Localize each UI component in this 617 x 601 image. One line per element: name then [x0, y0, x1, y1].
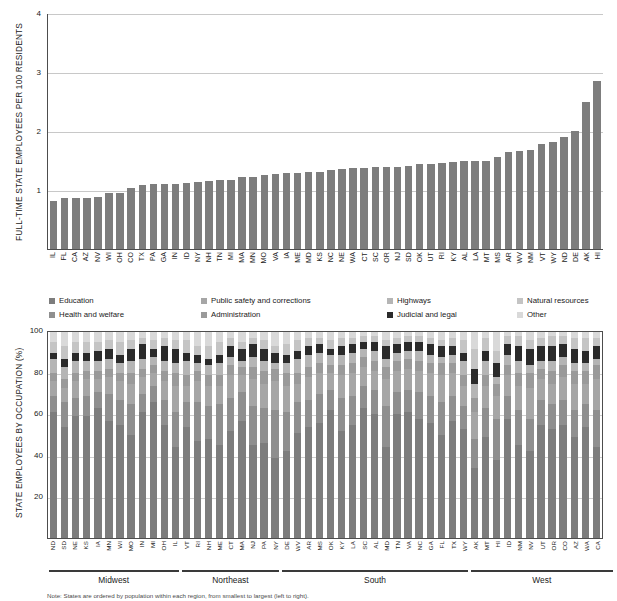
bar [83, 198, 91, 249]
stacked-bar-cell [403, 332, 414, 538]
stacked-bar [150, 332, 157, 538]
x-tick-label: VT [183, 541, 190, 549]
x-tick-label: OH [116, 252, 123, 263]
stack-segment [260, 371, 267, 383]
x-tick: NH [203, 252, 214, 282]
x-tick-label: DE [283, 541, 290, 550]
stacked-bar-cell [336, 332, 347, 538]
bar [127, 188, 135, 249]
stack-segment [427, 355, 434, 363]
bar [482, 161, 490, 249]
stacked-bar-cell [425, 332, 436, 538]
x-tick-label: UT [427, 252, 434, 262]
stacked-bar-cell [569, 332, 580, 538]
x-tick-label: MN [105, 541, 112, 551]
legend-label: Health and welfare [59, 311, 124, 319]
stack-segment [382, 346, 389, 358]
stack-segment [161, 400, 168, 425]
legend-item[interactable]: Health and welfare [49, 308, 201, 322]
stack-segment [205, 365, 212, 375]
x-tick-label: TX [138, 252, 145, 261]
x-tick-label: KY [450, 252, 457, 262]
stack-segment [127, 404, 134, 435]
stacked-bar-cell [270, 332, 281, 538]
bar-cell [170, 14, 181, 249]
stacked-bar [349, 332, 356, 538]
stack-segment [482, 408, 489, 437]
stack-segment [493, 363, 500, 377]
stack-segment [260, 349, 267, 361]
bar-cell [248, 14, 259, 249]
x-tick: IN [169, 252, 180, 282]
stack-segment [360, 357, 367, 367]
x-tick-label: MD [383, 541, 390, 551]
x-tick-label: UT [539, 541, 546, 549]
legend-item[interactable]: Natural resources [517, 294, 609, 308]
bar [216, 180, 224, 249]
stacked-bar-cell [513, 332, 524, 538]
stacked-bar-cell [192, 332, 203, 538]
stack-segment [316, 344, 323, 352]
stack-segment [338, 431, 345, 538]
stack-segment [515, 410, 522, 445]
stacked-bar [371, 332, 378, 538]
stack-segment [150, 386, 157, 402]
bar-cell [181, 14, 192, 249]
x-tick: OR [381, 252, 392, 282]
stack-segment [582, 363, 589, 371]
stack-segment [515, 336, 522, 346]
x-tick-label: AL [461, 252, 468, 261]
x-tick: LA [470, 252, 481, 282]
legend-item[interactable]: Other [517, 308, 609, 322]
stack-segment [294, 433, 301, 538]
stack-segment [327, 390, 334, 411]
y-tick-label: 3 [21, 68, 41, 77]
x-tick: SC [359, 541, 370, 567]
bar [316, 172, 324, 249]
x-tick-label: WY [550, 252, 557, 263]
x-tick: MT [481, 541, 492, 567]
stack-segment [83, 361, 90, 371]
x-tick: NV [525, 541, 536, 567]
legend-item[interactable]: Public safety and corrections [201, 294, 387, 308]
stack-segment [593, 410, 600, 447]
stack-segment [249, 357, 256, 367]
legend-item[interactable]: Administration [201, 308, 387, 322]
x-tick: OH [114, 252, 125, 282]
stack-segment [404, 342, 411, 350]
stack-segment [94, 342, 101, 350]
x-tick: NE [336, 252, 347, 282]
x-tick: OK [414, 252, 425, 282]
stack-segment [94, 371, 101, 379]
stack-segment [415, 342, 422, 350]
bar-cell [292, 14, 303, 249]
x-tick-label: NH [205, 541, 212, 550]
x-tick: NY [270, 541, 281, 567]
stacked-bar-cell [247, 332, 258, 538]
stack-segment [438, 346, 445, 356]
x-tick: CO [125, 252, 136, 282]
stack-segment [559, 344, 566, 356]
stacked-bar-cell [159, 332, 170, 538]
x-tick-label: SC [372, 252, 379, 262]
legend-item[interactable]: Highways [387, 294, 517, 308]
stacked-bar [559, 332, 566, 538]
stack-segment [460, 332, 467, 340]
legend-item[interactable]: Judicial and legal [387, 308, 517, 322]
bar-cell [503, 14, 514, 249]
bar [261, 175, 269, 249]
x-tick-label: NC [327, 252, 334, 262]
stack-segment [327, 332, 334, 340]
stack-segment [316, 394, 323, 423]
stack-segment [593, 365, 600, 379]
legend-item[interactable]: Education [49, 294, 201, 308]
x-tick-label: NY [272, 541, 279, 550]
stack-segment [438, 375, 445, 402]
x-tick-label: CO [127, 252, 134, 263]
stack-segment [371, 351, 378, 361]
bar [194, 182, 202, 249]
stack-segment [504, 375, 511, 396]
bar-cell [137, 14, 148, 249]
stack-segment [105, 349, 112, 359]
stacked-bar [548, 332, 555, 538]
